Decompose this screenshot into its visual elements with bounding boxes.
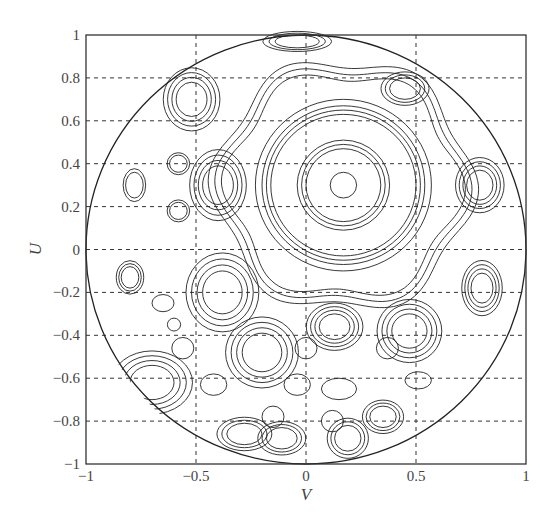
sidelobe-contour [258,422,306,455]
y-tick-label: −0.8 [53,413,80,429]
sidelobe-contour [262,425,301,452]
sidelobe-contour [327,418,368,458]
sidelobe-contour [200,374,226,395]
sidelobe-contour [118,356,187,410]
y-tick-label: 0.4 [61,156,80,172]
sidelobe-contour [198,160,237,209]
sidelobe-contour [168,73,216,127]
main-beam-ring [297,140,389,230]
sidelobe-contour [366,403,400,430]
sidelobe-contour [381,72,429,105]
sidelobe-contour [465,265,499,312]
sidelobe-contour [331,422,365,455]
main-beam-ring [255,99,431,271]
y-tick-label: 0 [73,242,81,258]
y-tick-label: −0.6 [53,370,81,386]
y-tick-label: −0.2 [53,284,80,300]
sidelobe-contour [121,267,139,288]
sidelobe-contour [335,425,361,451]
main-beam-ring [271,114,416,256]
main-beam-ring [262,106,425,265]
y-tick-label: −0.4 [53,327,81,343]
x-tick-label: −1 [78,468,94,484]
sidelobe-contour [321,378,356,399]
x-tick-label: 0.5 [407,468,426,484]
main-beam-ring [306,149,381,222]
sidelobe-contour [217,417,272,450]
contour-plot: −1−0.500.51 10.80.60.40.20−0.2−0.4−0.6−0… [0,0,553,530]
sidelobe-contour [321,410,343,431]
sidelobe-contour [387,309,432,353]
x-tick-label: −0.5 [182,468,209,484]
sidelobe-contour [468,269,496,307]
sidelobe-contour [172,337,194,358]
sidelobe-contour [242,333,282,372]
sidelobe-contour [471,273,493,303]
y-tick-label: 0.8 [61,70,80,86]
sidelobe-contour [116,261,143,294]
y-tick-label: 0.2 [61,199,80,215]
sidelobe-contour [167,200,190,222]
sidelobe-contour [167,153,190,175]
sidelobe-contour [382,304,437,358]
sidelobe-contour [390,78,421,99]
sidelobe-contour [126,172,144,198]
sidelobe-contour [170,202,188,219]
y-axis-ticks: 10.80.60.40.20−0.2−0.4−0.6−0.8−1 [53,27,81,472]
sidelobe-contour [222,420,267,447]
sidelobe-contour [231,322,293,382]
sidelobe-contour [459,162,500,209]
main-beam-ring [330,172,356,198]
sidelobe-contour [311,307,359,347]
sidelobe-contour [227,423,262,444]
y-tick-label: 0.6 [61,113,80,129]
y-tick-label: −1 [64,456,80,472]
sidelobe-contour [284,374,310,395]
sidelobe-contour [194,155,242,215]
sidelobe-contour [370,406,396,427]
main-beam-ring [302,144,386,226]
y-tick-label: 1 [73,27,81,43]
main-beam-ring [266,110,420,260]
sidelobe-contour [385,75,424,102]
x-axis-ticks: −1−0.500.51 [78,468,530,484]
sidelobe-contour [203,166,234,205]
x-tick-label: 1 [522,468,530,484]
sidelobe-contour [362,400,403,433]
sidelobe-contour [152,295,174,312]
y-axis-label: U [26,241,45,255]
sidelobe-contour [176,82,207,116]
x-axis-label: V [301,485,314,504]
sidelobe-contour [405,372,431,389]
x-tick-label: 0 [302,468,310,484]
wavy-ring [221,75,465,295]
sidelobe-contour [124,361,180,405]
sidelobe-contour [467,170,493,200]
contour-lines [112,31,505,458]
sidelobe-contour [130,365,174,399]
wavy-ring [215,69,472,302]
sidelobe-contour [172,77,211,121]
sidelobe-contour [167,318,180,331]
sidelobe-contour [463,166,497,204]
sidelobe-contour [315,310,354,343]
sidelobe-contour [123,169,146,202]
sidelobe-contour [119,264,142,291]
